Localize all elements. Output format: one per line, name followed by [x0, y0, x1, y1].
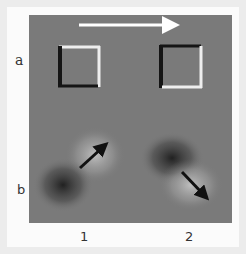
row-label-a: a — [15, 53, 23, 67]
embossed-square-2 — [160, 45, 202, 88]
embossed-square-1 — [58, 46, 100, 87]
shading-blob-pair-1 — [33, 127, 125, 212]
figure-panel — [29, 15, 232, 223]
column-label-2: 2 — [185, 230, 193, 243]
shading-blob-pair-2 — [140, 132, 223, 211]
figure-illustration — [29, 15, 232, 223]
column-label-1: 1 — [80, 230, 88, 243]
row-label-b: b — [17, 183, 25, 196]
